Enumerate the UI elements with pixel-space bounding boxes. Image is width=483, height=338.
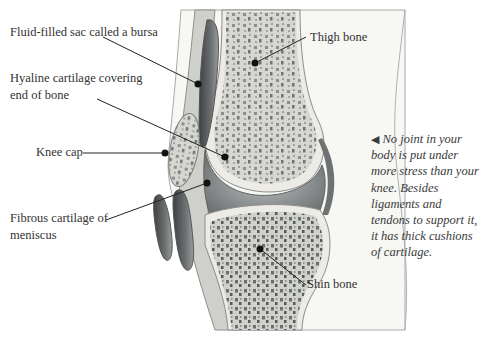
label-hyaline-line1: Hyaline cartilage covering <box>10 70 143 87</box>
label-meniscus: Fibrous cartilage of meniscus <box>10 210 108 244</box>
label-meniscus-line1: Fibrous cartilage of <box>10 210 108 227</box>
left-arrow-icon: ◀ <box>371 133 379 145</box>
label-knee-cap: Knee cap <box>36 144 83 161</box>
label-hyaline-cartilage: Hyaline cartilage covering end of bone <box>10 70 143 104</box>
label-hyaline-line2: end of bone <box>10 87 143 104</box>
label-meniscus-line2: meniscus <box>10 227 108 244</box>
label-shin-bone: Shin bone <box>307 276 357 293</box>
label-thigh-bone: Thigh bone <box>310 29 367 46</box>
lower-bursae <box>154 190 194 270</box>
label-bursa: Fluid-filled sac called a bursa <box>10 24 158 41</box>
caption-text: No joint in your body is put under more … <box>371 132 479 259</box>
side-caption: ◀No joint in your body is put under more… <box>371 131 483 261</box>
